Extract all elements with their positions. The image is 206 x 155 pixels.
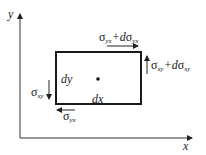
subscript: xy xyxy=(37,92,43,100)
x-axis-label: x xyxy=(183,140,188,152)
diagram-graphics xyxy=(0,0,206,155)
plus-d: +d xyxy=(112,30,126,44)
center-dot xyxy=(96,77,100,81)
width-label: dx xyxy=(92,93,103,105)
subscript: xy xyxy=(184,65,190,73)
top-stress-label: σyx+dσyx xyxy=(99,31,138,45)
stress-element-diagram: y x dy dx σyx+dσyx σxy+dσxy σxy σyx xyxy=(0,0,206,155)
bottom-stress-label: σyx xyxy=(63,110,76,124)
subscript: yx xyxy=(132,37,138,45)
subscript: yx xyxy=(69,116,75,124)
plus-d: +d xyxy=(164,58,178,72)
height-label: dy xyxy=(61,73,72,85)
left-stress-label: σxy xyxy=(31,86,44,100)
right-stress-label: σxy+dσxy xyxy=(151,59,190,73)
y-axis-label: y xyxy=(8,8,13,20)
